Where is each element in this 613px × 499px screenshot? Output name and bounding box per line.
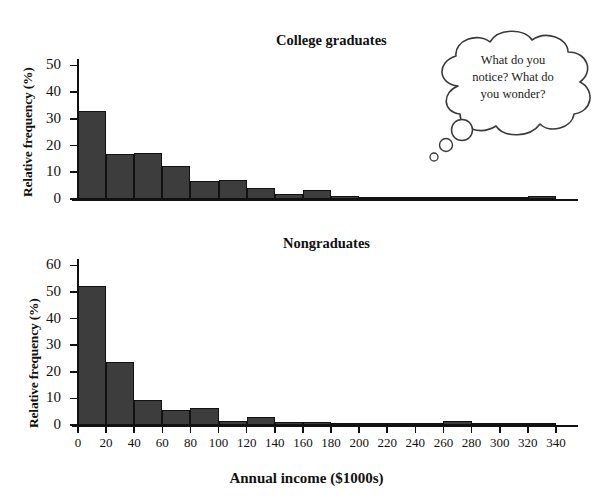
histogram-bar <box>134 153 162 200</box>
bubble-line-3: you wonder? <box>450 86 576 103</box>
histogram-bar <box>472 197 500 199</box>
histogram-bar <box>190 181 218 199</box>
x-axis-tick-label: 160 <box>289 436 317 449</box>
x-axis-tick-label: 120 <box>233 436 261 449</box>
x-axis-tick-label: 100 <box>205 436 233 449</box>
x-axis-tick <box>246 426 248 433</box>
thought-bubble: What do you notice? What do you wonder? <box>418 24 608 174</box>
histogram-bar <box>190 408 218 425</box>
histogram-bar <box>500 423 528 425</box>
histogram-bar <box>247 188 275 199</box>
chart-title-bottom: Nongraduates <box>283 235 370 252</box>
histogram-bar <box>219 180 247 199</box>
x-axis-tick <box>77 426 79 433</box>
y-axis-tick <box>70 265 78 267</box>
y-axis-tick <box>70 145 78 147</box>
thought-bubble-text: What do you notice? What do you wonder? <box>450 52 576 103</box>
y-axis-tick <box>70 171 78 173</box>
x-axis-tick <box>105 426 107 433</box>
y-axis-tick <box>70 371 78 373</box>
y-axis-tick-label: 0 <box>31 417 61 432</box>
y-axis-tick-label: 30 <box>31 337 61 352</box>
x-axis-tick-label: 80 <box>176 436 204 449</box>
histogram-bar <box>247 417 275 425</box>
y-axis-tick-label: 30 <box>31 111 61 126</box>
histogram-bar <box>303 190 331 199</box>
y-axis-tick <box>70 344 78 346</box>
histogram-bar <box>387 197 415 199</box>
x-axis-tick-label: 200 <box>345 436 373 449</box>
x-axis-tick-label: 340 <box>542 436 570 449</box>
histogram-bar <box>415 197 443 199</box>
x-axis-tick-label: 20 <box>92 436 120 449</box>
y-axis-tick-label: 60 <box>31 257 61 272</box>
histogram-bar <box>331 196 359 199</box>
y-axis-tick <box>70 118 78 120</box>
x-axis-tick <box>218 426 220 433</box>
y-axis-tick-label: 20 <box>31 364 61 379</box>
histogram-bar <box>275 194 303 199</box>
histogram-bar <box>106 362 134 425</box>
y-axis-tick-label: 50 <box>31 284 61 299</box>
x-axis-tick <box>527 426 529 433</box>
x-axis-tick-label: 0 <box>64 436 92 449</box>
x-axis-tick <box>471 426 473 433</box>
histogram-bar <box>528 196 556 199</box>
histogram-bar <box>528 423 556 425</box>
x-axis-tick <box>133 426 135 433</box>
x-axis-tick-label: 180 <box>317 436 345 449</box>
plot-area-bottom <box>78 260 570 425</box>
histogram-bar <box>500 197 528 199</box>
y-axis-tick-label: 10 <box>31 164 61 179</box>
histogram-bar <box>78 111 106 199</box>
x-axis-tick-label: 140 <box>261 436 289 449</box>
x-axis-tick-label: 220 <box>373 436 401 449</box>
histogram-bar <box>162 410 190 425</box>
histogram-bar <box>415 423 443 425</box>
x-axis-title: Annual income ($1000s) <box>0 470 613 487</box>
y-axis-tick-label: 40 <box>31 84 61 99</box>
histogram-bar <box>359 197 387 199</box>
x-axis-tick-label: 280 <box>458 436 486 449</box>
x-axis-tick <box>190 426 192 433</box>
histogram-figure: College graduates Relative frequency (%)… <box>0 0 613 499</box>
histogram-bar <box>162 166 190 199</box>
y-axis-tick-label: 50 <box>31 57 61 72</box>
x-axis-tick <box>386 426 388 433</box>
x-axis-tick-label: 260 <box>429 436 457 449</box>
x-axis-tick-label: 320 <box>514 436 542 449</box>
histogram-bar <box>443 197 471 199</box>
chart-title-top: College graduates <box>276 32 387 49</box>
histogram-bar <box>387 423 415 425</box>
x-axis-tick-label: 300 <box>486 436 514 449</box>
x-axis-tick <box>555 426 557 433</box>
y-axis-tick <box>70 198 78 200</box>
histogram-bar <box>219 421 247 425</box>
x-axis-tick <box>302 426 304 433</box>
histogram-bar <box>106 154 134 199</box>
x-axis-tick <box>330 426 332 433</box>
x-axis-tick-label: 40 <box>120 436 148 449</box>
bubble-line-2: notice? What do <box>450 69 576 86</box>
y-axis-tick-label: 40 <box>31 311 61 326</box>
y-axis-tick <box>70 91 78 93</box>
bubble-line-1: What do you <box>450 52 576 69</box>
histogram-bar <box>134 400 162 425</box>
x-axis-tick <box>443 426 445 433</box>
x-axis-tick <box>415 426 417 433</box>
histogram-bar <box>443 421 471 425</box>
chart-panel-nongraduates: Nongraduates Relative frequency (%) 0102… <box>0 225 613 499</box>
x-axis-tick <box>274 426 276 433</box>
histogram-bar <box>303 422 331 425</box>
x-axis-tick-label: 240 <box>401 436 429 449</box>
histogram-bar <box>359 423 387 425</box>
histogram-bar <box>331 423 359 425</box>
histogram-bar <box>472 423 500 425</box>
x-axis-line <box>72 199 578 201</box>
x-axis-tick-label: 60 <box>148 436 176 449</box>
y-axis-tick <box>70 291 78 293</box>
y-axis-tick-label: 20 <box>31 138 61 153</box>
y-axis-tick-label: 10 <box>31 390 61 405</box>
y-axis-tick <box>70 65 78 67</box>
x-axis-tick <box>358 426 360 433</box>
